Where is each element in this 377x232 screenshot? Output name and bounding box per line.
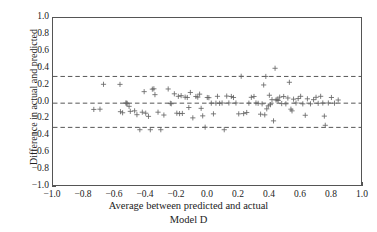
data-point [271, 118, 276, 123]
data-point [146, 114, 151, 119]
data-point [101, 82, 106, 87]
data-point [262, 112, 267, 117]
data-point [137, 127, 142, 132]
bland-altman-chart: 1.00.80.60.40.20.0−0.2−0.4−0.6−0.8−1.0 −… [0, 0, 377, 232]
x-tick-label: 1.0 [342, 189, 377, 199]
data-point [155, 110, 160, 115]
data-point [117, 82, 122, 87]
data-point [143, 111, 148, 116]
data-point [332, 101, 337, 106]
data-point [199, 106, 204, 111]
plot-canvas [53, 18, 361, 185]
data-point [158, 127, 163, 132]
data-point [263, 74, 268, 79]
data-point [313, 95, 318, 100]
data-point [316, 101, 321, 106]
data-point [303, 113, 308, 118]
data-point [283, 101, 288, 106]
data-point [140, 110, 145, 115]
data-point [308, 101, 313, 106]
data-point [209, 101, 214, 106]
data-point [211, 111, 216, 116]
data-point [200, 113, 205, 118]
data-point [267, 93, 272, 98]
data-point [220, 100, 225, 105]
plot-area [52, 17, 362, 186]
x-axis-label: Average between predicted and actual [0, 200, 377, 211]
data-point [180, 111, 185, 116]
x-tick-mark [362, 182, 363, 186]
data-point [152, 92, 157, 97]
data-point [169, 101, 174, 106]
data-point [258, 112, 263, 117]
data-point [239, 74, 244, 79]
data-point [176, 94, 181, 99]
data-point [249, 95, 254, 100]
data-point [91, 107, 96, 112]
data-point [224, 94, 229, 99]
data-point [233, 100, 238, 105]
data-point [128, 109, 133, 114]
data-point [172, 91, 177, 96]
data-point [326, 100, 331, 105]
data-point [318, 94, 323, 99]
data-point [246, 101, 251, 106]
data-point [251, 94, 256, 99]
data-point [190, 115, 195, 120]
data-point [322, 114, 327, 119]
data-point [272, 66, 277, 71]
data-point [222, 127, 227, 132]
data-point [97, 107, 102, 112]
chart-subtitle: Model D [0, 214, 377, 225]
data-point-group [91, 66, 341, 133]
data-point [261, 82, 266, 87]
data-point [241, 111, 246, 116]
data-point [166, 86, 171, 91]
data-point [293, 100, 298, 105]
data-point [142, 89, 147, 94]
data-point [226, 100, 231, 105]
data-point [244, 110, 249, 115]
data-point [260, 101, 265, 106]
data-point [215, 94, 220, 99]
data-point [161, 112, 166, 117]
data-point [287, 80, 292, 85]
data-point [336, 97, 341, 102]
data-point [305, 96, 310, 101]
data-point [296, 96, 301, 101]
data-point [186, 105, 191, 110]
data-point [188, 90, 193, 95]
data-point [300, 101, 305, 106]
data-point [298, 94, 303, 99]
data-point [134, 112, 139, 117]
data-point [148, 127, 153, 132]
data-point [329, 95, 334, 100]
data-point [236, 111, 241, 116]
data-point [203, 125, 208, 130]
reference-lines [53, 76, 361, 127]
y-tick-mark [52, 186, 56, 187]
data-point [320, 100, 325, 105]
data-point [311, 97, 316, 102]
data-point [291, 97, 296, 102]
y-axis-label: Difference in actual and predicted [29, 7, 39, 187]
data-point [132, 108, 137, 113]
